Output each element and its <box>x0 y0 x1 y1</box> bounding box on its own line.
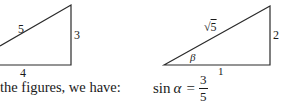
left-horizontal-leg-label: 4 <box>20 67 26 79</box>
angle-beta-label: β <box>190 51 195 63</box>
left-triangle <box>0 5 71 65</box>
sine-formula: sin α = 3 5 <box>153 73 208 104</box>
sqrt-radicand: 5 <box>211 20 217 34</box>
right-triangle <box>164 6 270 65</box>
alpha-symbol: α <box>174 80 182 97</box>
right-hypotenuse-label: √5 <box>204 20 217 35</box>
numerator: 3 <box>200 73 207 87</box>
fraction: 3 5 <box>199 73 208 104</box>
left-hypotenuse-label: 5 <box>18 23 24 35</box>
equals-sign: = <box>186 80 194 97</box>
sqrt-symbol: √ <box>204 20 211 34</box>
denominator: 5 <box>200 90 207 104</box>
right-horizontal-leg-label: 1 <box>218 65 224 77</box>
right-vertical-leg-label: 2 <box>273 29 279 41</box>
caption-text: the figures, we have: <box>0 79 121 96</box>
left-vertical-leg-label: 3 <box>74 29 80 41</box>
sin-function: sin <box>153 80 171 97</box>
